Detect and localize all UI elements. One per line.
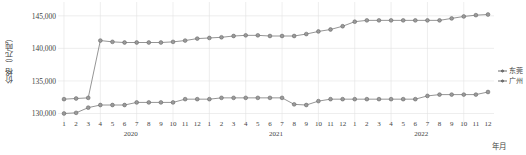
data-point (74, 97, 78, 101)
data-point (123, 41, 127, 45)
data-point (135, 101, 139, 105)
x-axis-tick-label: 3 (232, 120, 236, 128)
x-axis-tick-label: 9 (450, 120, 454, 128)
x-axis-tick-label: 5 (256, 120, 260, 128)
data-point (292, 102, 296, 106)
y-axis-tick-label: 135,000 (32, 76, 56, 85)
price-line-chart: 价格（元/吨） 130,000135,000140,000145,000 123… (0, 0, 526, 155)
data-point (62, 97, 66, 101)
data-point (304, 103, 308, 107)
x-axis-tick-label: 3 (86, 120, 90, 128)
data-point (280, 34, 284, 38)
data-point (220, 96, 224, 100)
plot-svg (58, 8, 494, 120)
data-point (244, 96, 248, 100)
x-axis-tick-label: 4 (389, 120, 393, 128)
data-point (450, 93, 454, 97)
data-point (256, 96, 260, 100)
x-axis-tick-label: 9 (159, 120, 163, 128)
x-axis-tick-label: 11 (182, 120, 189, 128)
x-axis-tick-label: 3 (377, 120, 381, 128)
data-point (462, 93, 466, 97)
x-axis-tick-label: 1 (62, 120, 66, 128)
data-point (401, 18, 405, 22)
x-axis-tick-label: 10 (315, 120, 322, 128)
data-point (171, 40, 175, 44)
x-axis-tick-label: 1 (208, 120, 212, 128)
x-axis-year-label: 2021 (269, 130, 283, 138)
data-point (86, 96, 90, 100)
data-point (438, 18, 442, 22)
data-point (304, 32, 308, 36)
data-point (220, 35, 224, 39)
data-point (123, 103, 127, 107)
data-point (377, 97, 381, 101)
data-point (268, 34, 272, 38)
legend-item-东莞[interactable]: 东莞 (498, 66, 526, 76)
x-axis-tick-label: 12 (485, 120, 492, 128)
x-axis-tick-label: 6 (123, 120, 127, 128)
data-point (450, 17, 454, 21)
data-point (183, 97, 187, 101)
x-axis-tick-label: 1 (353, 120, 357, 128)
data-point (401, 97, 405, 101)
data-point (426, 94, 430, 98)
x-axis-year-labels: 202020212022 (58, 130, 494, 142)
x-axis-year-label: 2022 (414, 130, 428, 138)
data-point (377, 18, 381, 22)
legend-marker-icon (498, 68, 507, 74)
data-point (86, 106, 90, 110)
x-axis-tick-label: 8 (292, 120, 296, 128)
x-axis-tick-label: 8 (147, 120, 151, 128)
legend-item-广州[interactable]: 广州 (498, 76, 526, 86)
data-point (329, 97, 333, 101)
data-point (353, 20, 357, 24)
data-point (244, 33, 248, 37)
data-point (111, 40, 115, 44)
data-point (62, 112, 66, 116)
data-point (426, 18, 430, 22)
data-point (438, 93, 442, 97)
x-axis-tick-label: 5 (401, 120, 405, 128)
data-point (292, 34, 296, 38)
x-axis-tick-label: 2 (365, 120, 369, 128)
x-axis-tick-label: 12 (194, 120, 201, 128)
x-axis-tick-label: 7 (135, 120, 139, 128)
data-point (74, 111, 78, 115)
data-point (413, 18, 417, 22)
data-point (159, 41, 163, 45)
data-point (232, 96, 236, 100)
y-axis-tick-label: 140,000 (32, 44, 56, 53)
data-point (413, 97, 417, 101)
data-point (111, 103, 115, 107)
x-axis-title: 年月 (492, 140, 506, 151)
data-point (195, 97, 199, 101)
data-point (341, 24, 345, 28)
x-axis-tick-label: 11 (473, 120, 480, 128)
data-point (486, 13, 490, 17)
x-axis-tick-label: 4 (99, 120, 103, 128)
data-point (135, 41, 139, 45)
data-point (353, 97, 357, 101)
data-point (341, 97, 345, 101)
x-axis-tick-label: 7 (280, 120, 284, 128)
data-point (147, 101, 151, 105)
data-point (389, 18, 393, 22)
legend-marker-icon (498, 78, 507, 84)
series-line-东莞 (64, 15, 488, 100)
legend-label: 广州 (509, 78, 523, 85)
data-point (365, 97, 369, 101)
x-axis-tick-label: 6 (268, 120, 272, 128)
data-point (486, 90, 490, 94)
series-line-广州 (64, 92, 488, 113)
data-point (98, 103, 102, 107)
y-axis-tick-labels: 130,000135,000140,000145,000 (18, 0, 58, 130)
data-point (462, 15, 466, 19)
x-axis-year-label: 2020 (124, 130, 138, 138)
data-point (317, 99, 321, 103)
x-axis-tick-label: 10 (460, 120, 467, 128)
data-point (207, 36, 211, 40)
data-point (317, 30, 321, 34)
x-axis-tick-label: 11 (327, 120, 334, 128)
data-point (389, 97, 393, 101)
